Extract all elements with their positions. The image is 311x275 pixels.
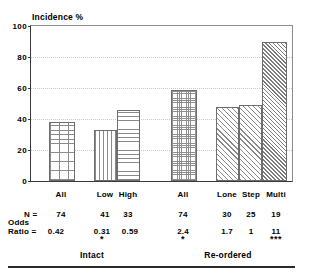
- xlabel-intact-high: High: [119, 190, 138, 199]
- bar-reordered-all: [171, 90, 197, 181]
- ytick-label-60: 60: [17, 84, 27, 93]
- ytick-label-20: 20: [17, 146, 27, 155]
- xlabel-reordered-all: All: [178, 190, 189, 199]
- odds-row-label-line2: Ratio =: [8, 227, 36, 236]
- n-value-intact-high: 33: [123, 210, 132, 219]
- xlabel-reordered-multi: Multi: [266, 190, 286, 199]
- n-value-intact-low: 41: [100, 210, 109, 219]
- ytick-mark-0: [28, 181, 31, 182]
- significance-reordered-all: *: [181, 236, 185, 242]
- ytick-label-80: 80: [17, 53, 27, 62]
- group-label-intact: Intact: [80, 250, 104, 260]
- odds-value-reordered-lone: 1.7: [221, 227, 233, 236]
- ytick-mark-100: [28, 26, 31, 27]
- bar-reordered-lone: [216, 107, 239, 181]
- chart-title: Incidence %: [32, 12, 83, 22]
- odds-value-intact-high: 0.59: [122, 227, 138, 236]
- ytick-label-40: 40: [17, 115, 27, 124]
- n-value-reordered-lone: 30: [222, 210, 231, 219]
- ytick-mark-40: [28, 119, 31, 120]
- n-value-reordered-all: 74: [178, 210, 187, 219]
- n-value-intact-all: 74: [56, 210, 65, 219]
- ytick-label-100: 100: [12, 22, 27, 31]
- gridline-80: [31, 57, 292, 58]
- xlabel-intact-all: All: [56, 190, 67, 199]
- significance-reordered-multi: ***: [270, 236, 282, 242]
- bar-intact-high: [117, 110, 140, 181]
- ytick-mark-60: [28, 88, 31, 89]
- bar-intact-all: [49, 122, 75, 181]
- incidence-bar-chart-figure: Incidence % 100 80 60 40 20 0 All Low Hi…: [0, 0, 311, 275]
- gridline-60: [31, 88, 292, 89]
- bar-reordered-step: [239, 105, 262, 181]
- odds-row-label-line1: Odds: [8, 218, 29, 227]
- group-label-reordered: Re-ordered: [204, 250, 251, 260]
- plot-area: 100 80 60 40 20 0: [30, 25, 293, 182]
- ytick-mark-80: [28, 57, 31, 58]
- xlabel-reordered-step: Step: [242, 190, 260, 199]
- n-value-reordered-multi: 19: [271, 210, 280, 219]
- odds-value-reordered-step: 1: [249, 227, 254, 236]
- bottom-divider: [8, 266, 295, 268]
- ytick-label-0: 0: [22, 177, 27, 186]
- n-value-reordered-step: 25: [246, 210, 255, 219]
- ytick-mark-20: [28, 150, 31, 151]
- bar-reordered-multi: [262, 42, 287, 182]
- xlabel-intact-low: Low: [97, 190, 114, 199]
- xlabel-reordered-lone: Lone: [217, 190, 237, 199]
- bar-intact-low: [94, 130, 117, 181]
- odds-value-intact-all: 0.42: [48, 227, 64, 236]
- significance-intact-low: *: [100, 236, 104, 242]
